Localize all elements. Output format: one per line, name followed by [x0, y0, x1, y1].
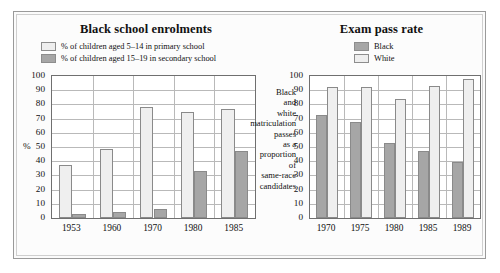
y-tick-label: 80 — [36, 98, 45, 108]
y-tick-label: 40 — [294, 155, 303, 165]
y-tick-label: 20 — [36, 184, 45, 194]
chart-title-left: Black school enrolments — [17, 22, 275, 37]
y-tick-label: 0 — [298, 212, 303, 222]
group-separator — [412, 76, 413, 218]
y-tick-label: 50 — [36, 141, 45, 151]
x-axis-right: 19701975198019851989 — [309, 221, 481, 237]
bar — [235, 151, 248, 218]
bar — [384, 143, 395, 218]
y-tick-label: 90 — [294, 84, 303, 94]
bar — [429, 86, 440, 218]
bar — [181, 112, 194, 218]
legend-swatch-secondary-icon — [41, 54, 56, 63]
legend-item: % of children aged 15–19 in secondary sc… — [41, 53, 216, 63]
group-separator — [93, 76, 94, 218]
y-tick-label: 50 — [294, 141, 303, 151]
figure-frame: Black school enrolments % of children ag… — [13, 11, 486, 259]
legend-item: Black — [354, 41, 394, 51]
chart-exam-pass-rate: Exam pass rate Black White 0102030405060… — [279, 15, 484, 255]
legend-swatch-primary-icon — [41, 42, 56, 51]
bar — [113, 212, 126, 218]
group-separator — [174, 76, 175, 218]
bar — [316, 115, 327, 218]
legend-label-white: White — [374, 54, 394, 63]
bar — [221, 109, 234, 218]
y-tick-label: 30 — [36, 169, 45, 179]
y-tick-label: 100 — [31, 70, 45, 80]
y-axis-title-left: % — [23, 141, 31, 151]
figure-root: Black school enrolments % of children ag… — [0, 0, 500, 273]
bar — [140, 107, 153, 218]
legend-swatch-black-icon — [354, 42, 369, 51]
bar — [100, 149, 113, 218]
y-tick-label: 70 — [294, 113, 303, 123]
legend-label-black: Black — [374, 42, 394, 51]
bar — [194, 171, 207, 218]
legend-label-secondary: % of children aged 15–19 in secondary sc… — [61, 54, 216, 63]
bar — [418, 151, 429, 218]
group-separator — [378, 76, 379, 218]
x-tick-label: 1970 — [143, 223, 162, 233]
y-tick-label: 20 — [294, 184, 303, 194]
y-tick-label: 80 — [294, 98, 303, 108]
group-separator — [133, 76, 134, 218]
x-tick-label: 1985 — [419, 223, 438, 233]
group-separator — [214, 76, 215, 218]
gridline — [52, 90, 255, 91]
x-tick-label: 1960 — [103, 223, 122, 233]
y-tick-label: 100 — [289, 70, 303, 80]
x-tick-label: 1980 — [385, 223, 404, 233]
y-tick-label: 10 — [294, 198, 303, 208]
legend-swatch-white-icon — [354, 54, 369, 63]
legend-right: Black White — [354, 41, 394, 65]
x-tick-label: 1985 — [224, 223, 243, 233]
bar — [72, 214, 85, 218]
plot-area-right: 0102030405060708090100 19701975198019851… — [279, 75, 484, 240]
group-separator — [446, 76, 447, 218]
y-tick-label: 70 — [36, 113, 45, 123]
bar — [361, 87, 372, 218]
bar — [154, 209, 167, 218]
bar — [395, 99, 406, 218]
bar — [463, 79, 474, 218]
y-tick-label: 0 — [40, 212, 45, 222]
legend-item: White — [354, 53, 394, 63]
x-tick-label: 1980 — [184, 223, 203, 233]
y-tick-label: 30 — [294, 169, 303, 179]
y-axis-right: 0102030405060708090100 — [279, 75, 305, 219]
legend-left: % of children aged 5–14 in primary schoo… — [41, 41, 216, 65]
plot-canvas-right — [309, 75, 481, 219]
gridline — [52, 104, 255, 105]
bar — [59, 165, 72, 218]
bar — [350, 122, 361, 218]
chart-title-right: Exam pass rate — [279, 22, 484, 37]
y-tick-label: 40 — [36, 155, 45, 165]
x-tick-label: 1970 — [317, 223, 336, 233]
group-separator — [344, 76, 345, 218]
y-tick-label: 60 — [294, 127, 303, 137]
bar — [452, 162, 463, 218]
x-tick-label: 1975 — [351, 223, 370, 233]
legend-label-primary: % of children aged 5–14 in primary schoo… — [61, 42, 205, 51]
legend-item: % of children aged 5–14 in primary schoo… — [41, 41, 216, 51]
y-tick-label: 90 — [36, 84, 45, 94]
figure-frame-inner: Black school enrolments % of children ag… — [16, 14, 483, 256]
y-tick-label: 10 — [36, 198, 45, 208]
x-tick-label: 1953 — [62, 223, 81, 233]
plot-canvas-left — [51, 75, 256, 219]
y-tick-label: 60 — [36, 127, 45, 137]
x-tick-label: 1989 — [453, 223, 472, 233]
x-axis-left: 19531960197019801985 — [51, 221, 256, 237]
bar — [327, 87, 338, 218]
